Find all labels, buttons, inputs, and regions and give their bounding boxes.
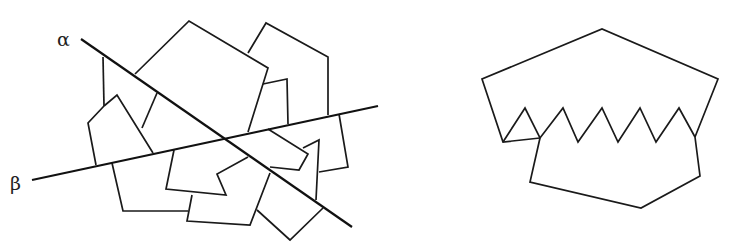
polygon-edge: [503, 108, 695, 142]
polygon-edge: [142, 93, 157, 128]
zigzag-split-polygon-figure: [482, 29, 718, 208]
polygon-edge: [88, 106, 104, 165]
polygon-edge: [268, 129, 308, 170]
polygon-edge: [104, 95, 153, 153]
polygon-edge: [530, 137, 700, 208]
polygon-edge: [166, 150, 248, 195]
diagram-canvas: [0, 0, 732, 252]
overlapping-polygons-figure: [88, 21, 348, 240]
line-beta: [32, 106, 378, 180]
polygon-edge: [135, 21, 268, 132]
line-alpha: [81, 39, 352, 227]
polygon-edge: [263, 79, 288, 124]
polygon-edge: [103, 57, 104, 106]
beta-label: β: [10, 172, 21, 194]
polygon-edge: [319, 114, 348, 172]
polygon-edge: [482, 29, 718, 142]
polygon-edge: [257, 208, 323, 240]
polygon-edge: [187, 173, 270, 225]
polygon-edge: [112, 163, 188, 211]
alpha-label: α: [57, 28, 70, 50]
polygon-edge: [303, 140, 319, 200]
cut-lines: [32, 39, 378, 227]
